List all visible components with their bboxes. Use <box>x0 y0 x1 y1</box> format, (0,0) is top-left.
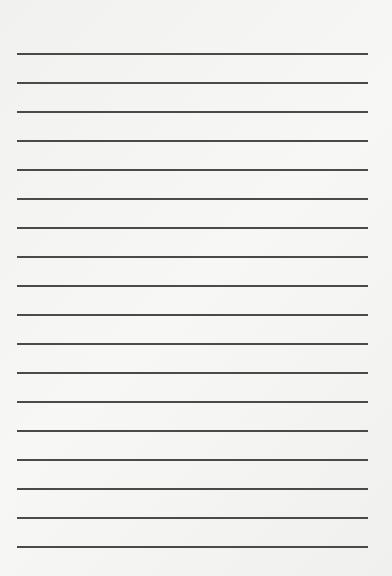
lined-paper-sheet <box>0 0 392 576</box>
ruled-line <box>17 53 368 55</box>
ruled-line <box>17 546 368 548</box>
ruled-line <box>17 198 368 200</box>
ruled-line <box>17 169 368 171</box>
ruled-line <box>17 285 368 287</box>
ruled-line <box>17 82 368 84</box>
ruled-line <box>17 488 368 490</box>
ruled-line <box>17 517 368 519</box>
ruled-line <box>17 343 368 345</box>
ruled-line <box>17 401 368 403</box>
ruled-line <box>17 256 368 258</box>
ruled-line <box>17 430 368 432</box>
ruled-line <box>17 140 368 142</box>
ruled-line <box>17 227 368 229</box>
ruled-line <box>17 372 368 374</box>
ruled-line <box>17 459 368 461</box>
ruled-line <box>17 314 368 316</box>
ruled-line <box>17 111 368 113</box>
